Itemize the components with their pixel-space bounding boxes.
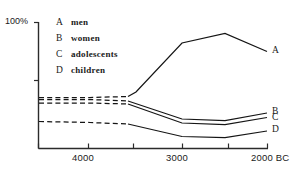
legend-key-b: B (56, 30, 71, 46)
y-axis-max-label: 100% (5, 16, 28, 26)
x-axis-label-4000: 4000 (72, 152, 94, 163)
x-axis-label-3000: 3000 (166, 152, 188, 163)
chart-legend: A men B women C adolescents D children (56, 14, 118, 78)
series-end-label-c: C (272, 112, 278, 122)
series-c-adolescents-dashed (39, 103, 128, 104)
series-a-men-dashed (39, 97, 128, 98)
legend-key-d: D (56, 62, 71, 78)
series-end-label-a: A (272, 45, 279, 55)
legend-item-c: C adolescents (56, 46, 118, 62)
legend-item-a: A men (56, 14, 118, 30)
legend-label-children: children (71, 62, 105, 78)
legend-label-adolescents: adolescents (71, 46, 118, 62)
series-end-label-d: D (272, 124, 279, 134)
legend-item-d: D children (56, 62, 118, 78)
legend-key-c: C (56, 46, 71, 62)
x-axis-label-2000-bc: 2000 BC (251, 152, 289, 163)
legend-key-a: A (56, 14, 71, 30)
legend-label-men: men (71, 14, 88, 30)
chart-container: 100% 4000 3000 2000 BC A men B women C a… (0, 0, 302, 171)
series-d-children-dashed (39, 122, 128, 125)
series-a-men-solid (128, 34, 267, 97)
series-b-women-dashed (39, 100, 128, 102)
series-d-children-solid (128, 124, 267, 138)
chart-plot-area (0, 0, 302, 171)
series-c-adolescents-solid (128, 104, 267, 125)
legend-item-b: B women (56, 30, 118, 46)
legend-label-women: women (71, 30, 100, 46)
